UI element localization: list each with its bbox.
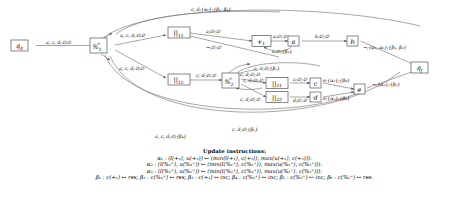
edge-label-a-b: b;∅;∅	[315, 34, 330, 39]
edge-label-par22-d: d;∅;∅	[293, 98, 308, 103]
svg-text:%1+: %1+	[93, 41, 102, 52]
edge-label-q0-p1: a, c, d;∅;∅	[46, 40, 72, 45]
edge-label-e-qf: ¬;{α₂};{β₂}	[372, 82, 400, 87]
edge-label-p1-par11: a, c, d;∅;∅	[120, 33, 146, 38]
node-pct1-plus: %1+	[90, 38, 107, 53]
node-b: b	[347, 36, 358, 46]
edge-label-p2-top: c, d;∅;{β₅}	[254, 66, 280, 71]
edge-label-low-back2: a, c, d;∅;{β₄}	[155, 134, 187, 139]
node-pct2-plus: %2+	[222, 73, 239, 88]
node-par11: ||11	[168, 27, 190, 38]
edge-label-d-e: e;{α₃};{β₆}	[323, 96, 350, 101]
edge-label-plus1-a: a;∅;∅	[273, 34, 288, 39]
instruction-alpha-1: α₁ : (l(+₁), u(+₁)) ↦ (min(l(+₁), c(+₁))…	[0, 155, 469, 161]
edge-c-e	[323, 83, 354, 89]
figure-canvas: q0 %1+ ||11 +1 a b ||12 %2+ ||21 ||22 c	[0, 0, 469, 220]
svg-text:e: e	[358, 86, 362, 94]
instructions-title: Update instructions:	[0, 148, 469, 154]
node-par22: ||22	[266, 92, 288, 103]
node-c: c	[310, 78, 321, 88]
node-q0: q0	[11, 40, 28, 51]
edge-p1-par12	[115, 50, 166, 78]
edge-label-p1-par12: a, c, d;∅;∅	[119, 66, 145, 71]
node-e: e	[354, 84, 365, 94]
update-instructions-block: Update instructions: α₁ : (l(+₁), u(+₁))…	[0, 148, 469, 180]
node-par12: ||12	[168, 74, 190, 85]
node-d: d	[310, 92, 321, 102]
edge-top-feedback	[103, 10, 420, 38]
edge-label-par11-alt: ¬;∅;∅	[206, 45, 222, 50]
node-qf: qf	[411, 62, 428, 73]
edge-label-p2-in-upper: c, d;∅;∅	[240, 72, 261, 77]
node-par21: ||21	[266, 78, 288, 89]
edge-label-p2-par22: c, d;∅;∅	[240, 97, 261, 102]
edge-label-c-e: e;{α₃};{β₆}	[323, 78, 350, 83]
svg-text:c: c	[314, 80, 318, 88]
edge-top-arrowline	[116, 11, 280, 34]
instruction-alpha-3: α₃ : (l(%₂⁺), u(%₂⁺)) ↦ (min(l(%₂⁺), c(%…	[0, 168, 469, 174]
instruction-alpha-2: α₂ : (l(%₁⁺), u(%₁⁺)) ↦ (min(l(%₁⁺), c(%…	[0, 161, 469, 167]
svg-text:%2+: %2+	[225, 76, 234, 87]
edge-par11-plus1	[190, 33, 252, 41]
node-plus1: +1	[252, 36, 271, 47]
edge-label-p2-par21: c, d;∅;∅	[243, 78, 264, 83]
edge-label-b-qf: ¬;{α₁, α₂};{β₁, β₂}	[363, 45, 406, 50]
edge-p2-par22	[241, 84, 266, 97]
edge-label-low-back1: c, d;∅;{β₅}	[232, 127, 258, 132]
edge-label-a-plus1: a;∅;{β₃}	[272, 49, 292, 54]
svg-text:a: a	[292, 38, 296, 46]
edge-label-par21-c: c;∅;∅	[293, 77, 308, 82]
edge-label-par12-p2: c, d;∅;∅	[196, 73, 217, 78]
svg-text:d: d	[313, 94, 317, 102]
edge-label-par11-plus1: a;∅;∅	[206, 29, 221, 34]
edge-label-top-back: c, d;{α₁};{β₁, β₄}	[191, 7, 231, 12]
node-a: a	[288, 36, 299, 46]
automaton-graph: q0 %1+ ||11 +1 a b ||12 %2+ ||21 ||22 c	[0, 0, 469, 220]
svg-text:b: b	[350, 38, 354, 46]
instruction-betas: β₁ : c(+₁) ↦ res; β₂ : c(%₁⁺) ↦ res; β₃ …	[0, 174, 469, 180]
edge-bottom-arrowhead	[101, 54, 110, 60]
